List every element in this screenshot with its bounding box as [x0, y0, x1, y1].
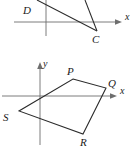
bottom-axis-label-x: x	[119, 85, 125, 96]
figure-bottom-svg: P Q R S x y	[0, 55, 134, 148]
figure-top-panel: D C x	[0, 0, 134, 48]
top-edge-top-to-c	[85, 0, 97, 31]
point-label-r: R	[79, 136, 87, 148]
parallelogram-pqrs	[19, 79, 106, 134]
point-label-c: C	[92, 33, 100, 45]
top-x-axis-arrow-icon	[115, 19, 122, 25]
point-label-q: Q	[108, 77, 116, 89]
figure-sheet: D C x P Q R S x y	[0, 0, 134, 148]
point-label-d: D	[22, 4, 31, 16]
figure-top-svg: D C x	[0, 0, 134, 48]
bottom-axis-label-y: y	[42, 58, 48, 69]
top-axis-label-x: x	[124, 11, 130, 22]
figure-bottom-panel: P Q R S x y	[0, 55, 134, 148]
point-label-s: S	[3, 111, 9, 123]
point-label-p: P	[66, 65, 74, 77]
bottom-y-axis-arrow-icon	[37, 62, 43, 69]
bottom-x-axis-arrow-icon	[110, 93, 117, 99]
